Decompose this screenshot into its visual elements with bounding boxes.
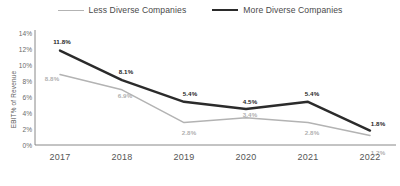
legend-label-less-diverse: Less Diverse Companies [89, 5, 187, 15]
data-label-more-2018: 8.1% [119, 68, 134, 75]
y-tick-0: 0% [10, 142, 32, 149]
legend-label-more-diverse: More Diverse Companies [243, 5, 342, 15]
series-line-more-diverse [60, 51, 370, 131]
data-label-less-2019: 2.8% [182, 129, 197, 136]
legend-item-less-diverse: Less Diverse Companies [58, 5, 187, 15]
chart-legend: Less Diverse Companies More Diverse Comp… [0, 2, 400, 18]
series-line-less-diverse [60, 75, 370, 136]
x-tick-2019: 2019 [174, 152, 195, 162]
data-label-more-2022: 1.8% [371, 120, 386, 127]
data-label-more-2021: 5.4% [305, 90, 320, 97]
legend-line-swatch-more-diverse [212, 9, 238, 11]
legend-line-swatch-less-diverse [58, 10, 84, 11]
data-label-more-2017: 11.8% [53, 38, 71, 45]
data-label-more-2020: 4.5% [243, 98, 258, 105]
y-tick-8: 8% [10, 78, 32, 85]
chart-container: Less Diverse Companies More Diverse Comp… [0, 0, 400, 186]
x-tick-2020: 2020 [236, 152, 257, 162]
legend-item-more-diverse: More Diverse Companies [212, 5, 342, 15]
data-label-less-2017: 8.8% [45, 75, 60, 82]
x-tick-2017: 2017 [50, 152, 71, 162]
data-label-more-2019: 5.4% [183, 90, 198, 97]
x-tick-2022: 2022 [360, 152, 381, 162]
y-axis-ticks: 14% 12% 10% 8% 6% 4% 2% 0% [8, 0, 32, 186]
y-tick-10: 10% [10, 62, 32, 69]
y-tick-4: 4% [10, 110, 32, 117]
data-label-less-2018: 6.9% [118, 92, 133, 99]
y-tick-12: 12% [10, 46, 32, 53]
x-tick-2021: 2021 [298, 152, 319, 162]
data-label-less-2020: 3.4% [243, 111, 258, 118]
data-label-less-2021: 2.8% [305, 129, 320, 136]
y-tick-2: 2% [10, 126, 32, 133]
y-tick-14: 14% [10, 30, 32, 37]
x-tick-2018: 2018 [112, 152, 133, 162]
y-tick-6: 6% [10, 94, 32, 101]
